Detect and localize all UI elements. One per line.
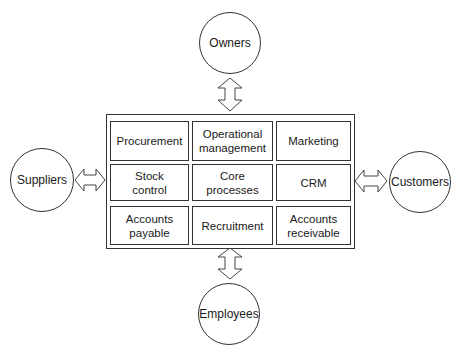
cell-stock-control: Stock control — [110, 164, 189, 201]
arrow-employees-icon — [218, 248, 242, 279]
cell-crm: CRM — [276, 164, 351, 201]
cell-core-processes: Core processes — [192, 164, 273, 201]
cell-label: CRM — [300, 176, 326, 190]
cell-label: Marketing — [288, 134, 339, 148]
cell-recruitment: Recruitment — [192, 206, 273, 245]
cell-label: Core processes — [201, 169, 265, 197]
cell-label: Accounts receivable — [281, 212, 347, 240]
cell-marketing: Marketing — [276, 121, 351, 161]
cell-label: Stock control — [125, 169, 175, 197]
arrow-owners-icon — [218, 78, 242, 111]
cell-accounts-receivable: Accounts receivable — [276, 206, 351, 245]
cell-accounts-payable: Accounts payable — [110, 206, 189, 245]
arrow-suppliers-icon — [75, 169, 105, 191]
cell-label: Operational management — [198, 127, 268, 155]
cell-label: Accounts payable — [120, 212, 180, 240]
cell-operational-management: Operational management — [192, 121, 273, 161]
cell-label: Recruitment — [202, 219, 264, 233]
cell-label: Procurement — [117, 134, 183, 148]
cell-procurement: Procurement — [110, 121, 189, 161]
arrow-customers-icon — [355, 170, 387, 192]
